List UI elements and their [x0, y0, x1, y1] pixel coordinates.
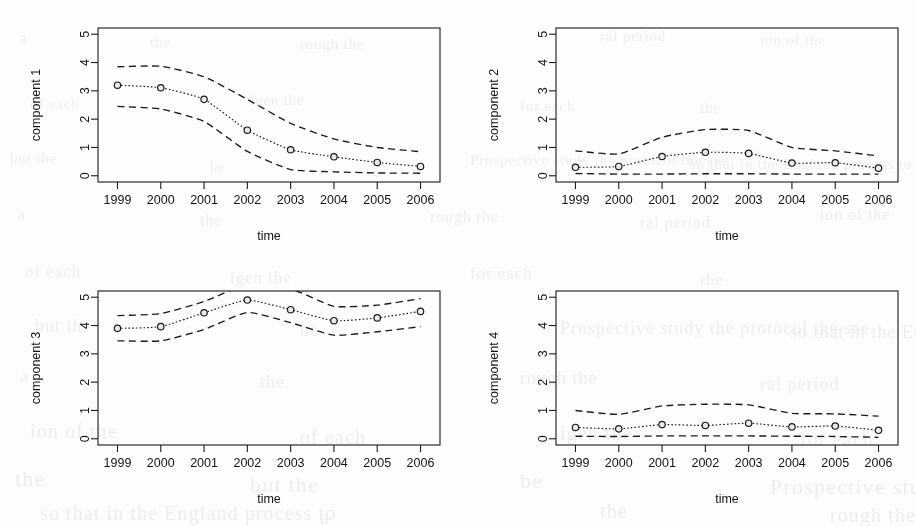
x-tick-label: 2006 [865, 193, 893, 207]
plot-canvas-4: 01234519992000200120022003200420052006co… [458, 263, 916, 526]
y-axis-title: component 3 [29, 332, 43, 404]
x-tick-label: 2005 [821, 193, 849, 207]
data-point-marker [158, 85, 164, 91]
series-group [114, 66, 423, 173]
data-point-marker [832, 423, 838, 429]
x-tick-label: 2006 [407, 456, 435, 470]
y-axis-title: component 2 [487, 69, 501, 141]
data-point-marker [287, 147, 293, 153]
data-point-marker [659, 421, 665, 427]
panel-component-2: 01234519992000200120022003200420052006co… [458, 0, 916, 263]
y-tick-label: 0 [78, 172, 92, 179]
confidence-band-line [575, 436, 878, 437]
y-tick-label: 1 [78, 144, 92, 151]
x-tick-label: 2003 [277, 456, 305, 470]
x-tick-label: 1999 [104, 193, 132, 207]
data-point-marker [702, 422, 708, 428]
y-tick-label: 3 [536, 350, 550, 357]
plot-frame [98, 291, 440, 445]
confidence-band-line [575, 174, 878, 175]
series-group [572, 129, 881, 174]
data-point-marker [201, 310, 207, 316]
y-tick-label: 4 [78, 322, 92, 329]
y-tick-label: 2 [536, 379, 550, 386]
x-tick-label: 2000 [605, 456, 633, 470]
x-tick-label: 2006 [865, 456, 893, 470]
data-point-marker [374, 159, 380, 165]
x-tick-label: 2004 [778, 456, 806, 470]
data-point-marker [572, 424, 578, 430]
y-tick-label: 5 [78, 31, 92, 38]
y-tick-label: 5 [536, 31, 550, 38]
x-axis-title: time [715, 492, 739, 506]
data-point-marker [616, 163, 622, 169]
x-tick-label: 2005 [363, 193, 391, 207]
x-axis-title: time [257, 492, 281, 506]
x-axis-title: time [257, 229, 281, 243]
data-point-marker [331, 154, 337, 160]
y-tick-label: 2 [78, 116, 92, 123]
data-point-marker [745, 420, 751, 426]
x-tick-label: 2002 [233, 456, 261, 470]
data-point-marker [572, 164, 578, 170]
y-tick-label: 0 [536, 172, 550, 179]
confidence-band-line [117, 66, 420, 152]
data-point-marker [287, 306, 293, 312]
series-group [572, 404, 881, 437]
x-tick-label: 1999 [562, 193, 590, 207]
data-point-marker [417, 163, 423, 169]
data-point-marker [789, 160, 795, 166]
x-tick-label: 2003 [735, 456, 763, 470]
data-point-marker [702, 149, 708, 155]
plot-canvas-2: 01234519992000200120022003200420052006co… [458, 0, 916, 263]
y-tick-label: 4 [536, 59, 550, 66]
series-group [114, 284, 423, 341]
x-tick-label: 2003 [735, 193, 763, 207]
data-point-marker [616, 426, 622, 432]
x-tick-label: 2004 [320, 456, 348, 470]
median-line [117, 85, 420, 166]
plot-canvas-3: 01234519992000200120022003200420052006co… [0, 263, 458, 526]
y-tick-label: 4 [78, 59, 92, 66]
y-tick-label: 4 [536, 322, 550, 329]
panel-component-1: 01234519992000200120022003200420052006co… [0, 0, 458, 263]
data-point-marker [789, 424, 795, 430]
x-tick-label: 2002 [691, 456, 719, 470]
data-point-marker [244, 127, 250, 133]
x-axis-title: time [715, 229, 739, 243]
y-tick-label: 1 [536, 407, 550, 414]
x-tick-label: 2001 [648, 193, 676, 207]
plot-frame [556, 28, 898, 182]
data-point-marker [875, 165, 881, 171]
data-point-marker [875, 427, 881, 433]
data-point-marker [158, 323, 164, 329]
y-tick-label: 0 [536, 435, 550, 442]
y-axis-title: component 1 [29, 69, 43, 141]
x-tick-label: 2001 [190, 456, 218, 470]
plot-frame [556, 291, 898, 445]
data-point-marker [331, 318, 337, 324]
y-tick-label: 1 [536, 144, 550, 151]
data-point-marker [832, 160, 838, 166]
y-tick-label: 2 [78, 379, 92, 386]
x-tick-label: 2002 [233, 193, 261, 207]
x-tick-label: 2004 [320, 193, 348, 207]
y-tick-label: 2 [536, 116, 550, 123]
x-tick-label: 2006 [407, 193, 435, 207]
y-tick-label: 3 [78, 350, 92, 357]
x-tick-label: 2000 [147, 193, 175, 207]
x-tick-label: 2005 [363, 456, 391, 470]
y-tick-label: 0 [78, 435, 92, 442]
y-tick-label: 5 [536, 294, 550, 301]
x-tick-label: 2001 [190, 193, 218, 207]
x-tick-label: 2005 [821, 456, 849, 470]
data-point-marker [417, 308, 423, 314]
plot-canvas-1: 01234519992000200120022003200420052006co… [0, 0, 458, 263]
y-tick-label: 3 [536, 87, 550, 94]
x-tick-label: 1999 [104, 456, 132, 470]
data-point-marker [659, 153, 665, 159]
data-point-marker [114, 325, 120, 331]
x-tick-label: 2003 [277, 193, 305, 207]
data-point-marker [201, 96, 207, 102]
confidence-band-line [117, 284, 420, 315]
